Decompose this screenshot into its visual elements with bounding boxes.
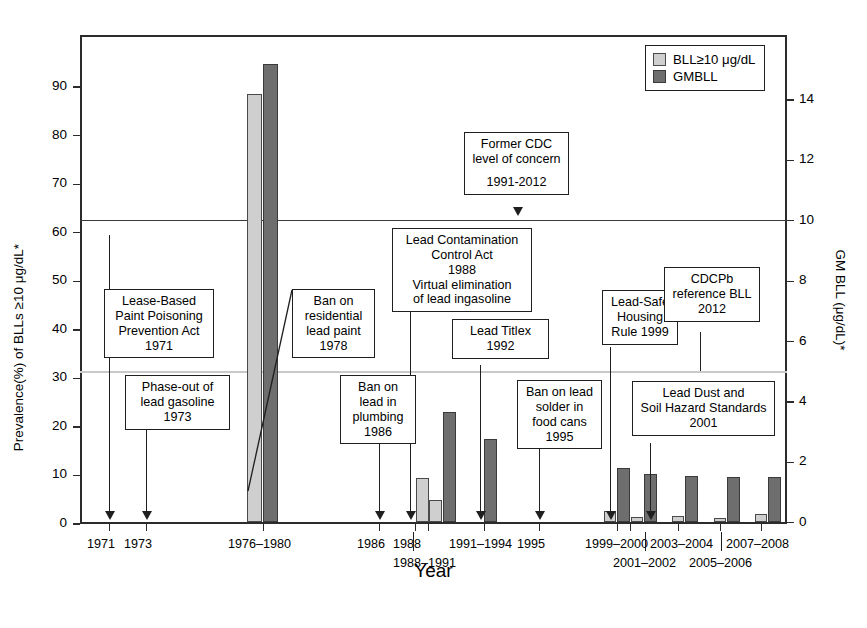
arrow-cdc-level bbox=[513, 207, 523, 216]
x-tick-1973 bbox=[146, 524, 147, 531]
annotation-line: 1988 bbox=[399, 263, 525, 278]
legend: BLL≥10 μg/dL GMBLL bbox=[645, 45, 765, 91]
annotation-line: Lease-Based bbox=[111, 294, 207, 309]
x-label-separator-1988 bbox=[413, 532, 414, 551]
annotation-line: plumbing bbox=[347, 410, 409, 425]
x-tick-1991-1994 bbox=[484, 524, 485, 531]
x-tick-1999-2000 bbox=[617, 524, 618, 531]
annotation-line: solder in bbox=[524, 400, 595, 415]
y-right-tick-14 bbox=[787, 99, 794, 100]
y-right-label-8: 8 bbox=[799, 273, 833, 287]
x-tick-2003-2004 bbox=[678, 524, 679, 531]
leader-1999 bbox=[610, 347, 611, 513]
y-right-axis-title: GM BLL (μg/dL)* bbox=[833, 249, 848, 350]
legend-swatch-icon-gmbll bbox=[653, 70, 666, 83]
annotation-line: Soil Hazard Standards bbox=[639, 401, 768, 416]
y-right-tick-6 bbox=[787, 341, 794, 342]
y-right-label-14: 14 bbox=[799, 92, 833, 106]
y-right-label-4: 4 bbox=[799, 394, 833, 408]
y-right-tick-10 bbox=[787, 220, 794, 221]
x-tick-2001-2002 bbox=[630, 524, 631, 531]
y-right-tick-4 bbox=[787, 401, 794, 402]
x-label-1988-1991: 1988–1991 bbox=[393, 556, 456, 570]
leader-1986 bbox=[379, 433, 380, 513]
y-left-label-90: 90 bbox=[33, 79, 67, 93]
annotation-line: Prevention Act bbox=[111, 324, 207, 339]
x-tick-2007-2008 bbox=[761, 524, 762, 531]
x-label-separator-2001 bbox=[645, 532, 646, 551]
annotation-line: Control Act bbox=[399, 248, 525, 263]
y-right-tick-0 bbox=[787, 522, 794, 523]
legend-item-bll10: BLL≥10 μg/dL bbox=[653, 51, 755, 68]
arrow-1986 bbox=[375, 511, 385, 520]
y-left-tick-60 bbox=[73, 232, 80, 233]
x-tick-1976-1980 bbox=[263, 524, 264, 531]
annotation-lead-titlex: Lead Titlex 1992 bbox=[452, 319, 549, 359]
x-label-1999-2000: 1999–2000 bbox=[585, 537, 648, 551]
annotation-line: 2012 bbox=[671, 302, 753, 317]
annotation-cdcpb-reference-bll: CDCPb reference BLL 2012 bbox=[664, 267, 760, 322]
x-label-1971: 1971 bbox=[87, 537, 115, 551]
annotation-line: Housing bbox=[609, 310, 671, 325]
y-left-tick-80 bbox=[73, 135, 80, 136]
annotation-line: Ban on lead bbox=[524, 385, 595, 400]
annotation-line: reference BLL bbox=[671, 287, 753, 302]
annotation-line: food cans bbox=[524, 415, 595, 430]
annotation-former-cdc-level: Former CDC level of concern 1991-2012 bbox=[464, 132, 569, 195]
y-left-label-50: 50 bbox=[33, 273, 67, 287]
legend-swatch-icon-bll10 bbox=[653, 53, 666, 66]
y-left-label-20: 20 bbox=[33, 419, 67, 433]
leader-1992 bbox=[480, 365, 481, 513]
annotation-line: Lead Dust and bbox=[639, 386, 768, 401]
y-right-tick-12 bbox=[787, 160, 794, 161]
x-tick-1988-1991 bbox=[428, 524, 429, 531]
annotation-lease-based-paint: Lease-Based Paint Poisoning Prevention A… bbox=[104, 289, 214, 358]
y-right-label-10: 10 bbox=[799, 213, 833, 227]
x-tick-2005-2006 bbox=[720, 524, 721, 531]
annotation-line: 1992 bbox=[459, 339, 542, 354]
annotation-line: Phase-out of bbox=[132, 380, 223, 395]
x-label-1991-1994: 1991–1994 bbox=[449, 537, 512, 551]
y-right-tick-2 bbox=[787, 462, 794, 463]
annotation-line: Paint Poisoning bbox=[111, 309, 207, 324]
y-left-label-30: 30 bbox=[33, 370, 67, 384]
annotation-line: lead paint bbox=[299, 324, 368, 339]
annotation-line: residential bbox=[299, 309, 368, 324]
annotation-ban-residential-paint: Ban on residential lead paint 1978 bbox=[292, 289, 375, 358]
y-left-label-70: 70 bbox=[33, 176, 67, 190]
x-tick-1986 bbox=[379, 524, 380, 531]
x-label-separator-2005 bbox=[721, 532, 722, 551]
legend-label-gmbll: GMBLL bbox=[673, 69, 718, 84]
x-label-2007-2008: 2007–2008 bbox=[726, 537, 789, 551]
annotation-line: 1978 bbox=[299, 339, 368, 354]
leader-2001 bbox=[650, 443, 651, 513]
legend-label-bll10: BLL≥10 μg/dL bbox=[673, 52, 755, 67]
annotation-ban-lead-solder: Ban on lead solder in food cans 1995 bbox=[517, 380, 602, 449]
y-right-label-6: 6 bbox=[799, 334, 833, 348]
y-left-label-0: 0 bbox=[33, 516, 67, 530]
y-left-tick-20 bbox=[73, 426, 80, 427]
x-tick-1988 bbox=[415, 524, 416, 531]
x-tick-1995 bbox=[539, 524, 540, 531]
y-left-tick-40 bbox=[73, 329, 80, 330]
annotation-line: CDCPb bbox=[671, 272, 753, 287]
y-right-label-2: 2 bbox=[799, 454, 833, 468]
annotation-phase-out-gasoline: Phase-out of lead gasoline 1973 bbox=[125, 375, 230, 430]
x-tick-1971 bbox=[109, 524, 110, 531]
arrow-1999 bbox=[606, 511, 616, 520]
annotation-line: Ban on bbox=[347, 380, 409, 395]
legend-item-gmbll: GMBLL bbox=[653, 68, 755, 85]
annotation-line: 2001 bbox=[639, 416, 768, 431]
arrow-2001 bbox=[646, 511, 656, 520]
arrow-1995 bbox=[535, 511, 545, 520]
leader-2012 bbox=[700, 332, 701, 371]
y-left-label-80: 80 bbox=[33, 128, 67, 142]
annotation-lead-contamination-act: Lead Contamination Control Act 1988 Virt… bbox=[392, 228, 532, 312]
x-label-1976-1980: 1976–1980 bbox=[228, 537, 291, 551]
annotation-line: Former CDC bbox=[471, 137, 562, 152]
annotation-line: Rule 1999 bbox=[609, 325, 671, 340]
annotation-line: 1991-2012 bbox=[471, 175, 562, 190]
annotation-line: Virtual elimination bbox=[399, 278, 525, 293]
annotation-line: lead in bbox=[347, 395, 409, 410]
x-label-1988: 1988 bbox=[393, 537, 421, 551]
